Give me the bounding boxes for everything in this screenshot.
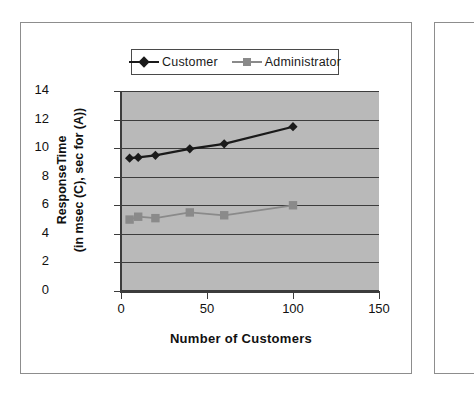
- data-point-square: [289, 201, 297, 209]
- data-series-layer: [121, 91, 379, 291]
- legend-swatch-administrator: [232, 56, 262, 68]
- y-tick: [114, 120, 121, 121]
- y-tick-label: 8: [9, 168, 49, 183]
- data-point-square: [151, 214, 159, 222]
- y-tick: [114, 262, 121, 263]
- data-point-diamond: [125, 154, 134, 163]
- data-point-square: [125, 215, 133, 223]
- legend-item-customer: Customer: [129, 55, 218, 69]
- y-tick: [114, 91, 121, 92]
- adjacent-page-panel: [434, 22, 474, 374]
- x-axis: [120, 291, 380, 293]
- y-tick-label: 2: [9, 253, 49, 268]
- x-tick-label: 0: [96, 301, 146, 316]
- diamond-marker-icon: [138, 56, 149, 67]
- y-tick-label: 10: [9, 139, 49, 154]
- y-axis-title-line1: ResponseTime: [54, 70, 71, 290]
- y-tick-label: 0: [9, 282, 49, 297]
- y-axis-title-line2: (in msec (C), sec for (A)): [71, 70, 88, 290]
- data-point-diamond: [220, 139, 229, 148]
- y-tick: [114, 205, 121, 206]
- data-point-square: [220, 211, 228, 219]
- y-tick-label: 14: [9, 82, 49, 97]
- data-point-diamond: [288, 122, 297, 131]
- y-tick: [114, 291, 121, 292]
- data-point-square: [186, 208, 194, 216]
- data-point-diamond: [185, 144, 194, 153]
- legend-swatch-customer: [129, 56, 159, 68]
- legend-label-customer: Customer: [162, 55, 218, 69]
- legend-label-administrator: Administrator: [265, 55, 341, 69]
- x-tick: [121, 292, 122, 299]
- x-tick: [293, 292, 294, 299]
- legend-item-administrator: Administrator: [232, 55, 341, 69]
- y-tick: [114, 234, 121, 235]
- y-tick-label: 4: [9, 225, 49, 240]
- x-tick: [207, 292, 208, 299]
- data-point-square: [134, 213, 142, 221]
- x-tick: [379, 292, 380, 299]
- data-point-diamond: [134, 153, 143, 162]
- y-tick: [114, 148, 121, 149]
- line-chart: Customer Administrator: [21, 23, 413, 375]
- y-axis-title: ResponseTime (in msec (C), sec for (A)): [54, 70, 88, 290]
- data-point-diamond: [151, 151, 160, 160]
- x-axis-title: Number of Customers: [91, 331, 391, 346]
- x-tick-label: 100: [268, 301, 318, 316]
- series-markers-administrator: [125, 201, 297, 224]
- y-tick-label: 6: [9, 196, 49, 211]
- x-tick-label: 50: [182, 301, 232, 316]
- chart-legend: Customer Administrator: [131, 49, 339, 75]
- x-tick-label: 150: [354, 301, 404, 316]
- y-tick-label: 12: [9, 111, 49, 126]
- square-marker-icon: [243, 58, 251, 66]
- figure-frame: Customer Administrator: [20, 22, 412, 374]
- y-tick: [114, 177, 121, 178]
